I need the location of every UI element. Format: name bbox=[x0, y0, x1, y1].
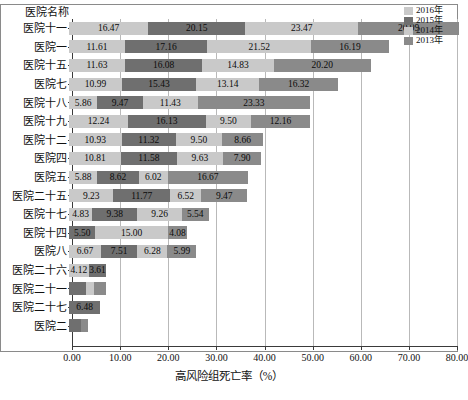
bar-segment[interactable]: 3.61 bbox=[89, 264, 106, 277]
stacked-bar[interactable]: 11.6117.1621.5216.19 bbox=[69, 40, 389, 53]
legend-label: 2014年 bbox=[416, 26, 443, 35]
bar-segment[interactable]: 9.47 bbox=[201, 189, 247, 202]
bar-row-label: 医院二十六 bbox=[0, 264, 69, 276]
bar-segment[interactable]: 16.19 bbox=[311, 40, 389, 53]
stacked-bar[interactable]: 5.869.4711.4323.33 bbox=[69, 96, 310, 109]
bar-segment[interactable]: 4.08 bbox=[168, 226, 188, 239]
bar-segment[interactable]: 16.47 bbox=[69, 22, 148, 35]
bar-segment[interactable]: 6.48 bbox=[69, 301, 100, 314]
bar-row-label: 医院二十七 bbox=[0, 301, 69, 313]
bar-wrap: 12.2416.139.5012.16 bbox=[69, 112, 458, 131]
bar-segment[interactable]: 5.50 bbox=[69, 226, 95, 239]
bar-segment[interactable]: 5.54 bbox=[182, 208, 209, 221]
bar-segment[interactable]: 6.02 bbox=[139, 171, 168, 184]
bar-segment[interactable]: 5.86 bbox=[69, 96, 97, 109]
bar-segment[interactable]: 11.63 bbox=[69, 59, 125, 72]
bar-segment[interactable]: 9.50 bbox=[206, 115, 252, 128]
stacked-bar[interactable]: 11.6316.0814.8320.20 bbox=[69, 59, 371, 72]
stacked-bar[interactable]: 4.839.389.265.54 bbox=[69, 208, 209, 221]
bar-row-label: 医院八 bbox=[0, 245, 69, 257]
bar-segment[interactable]: 10.81 bbox=[69, 152, 121, 165]
bar-segment[interactable]: 6.67 bbox=[69, 245, 101, 258]
bar-segment[interactable] bbox=[69, 319, 81, 332]
bar-segment[interactable]: 7.90 bbox=[223, 152, 261, 165]
bar-segment[interactable]: 13.14 bbox=[196, 78, 259, 91]
bar-wrap: 5.869.4711.4323.33 bbox=[69, 93, 458, 112]
bar-segment[interactable]: 20.15 bbox=[148, 22, 245, 35]
bar-segment[interactable]: 16.67 bbox=[168, 171, 248, 184]
bar-segment[interactable]: 16.32 bbox=[259, 78, 338, 91]
bar-segment[interactable]: 7.51 bbox=[101, 245, 137, 258]
bar-row-label: 医院二十一 bbox=[0, 283, 69, 295]
bar-segment[interactable]: 5.88 bbox=[69, 171, 97, 184]
bar-segment[interactable]: 10.93 bbox=[69, 133, 122, 146]
bar-segment[interactable]: 15.00 bbox=[95, 226, 167, 239]
bar-segment[interactable]: 5.99 bbox=[167, 245, 196, 258]
legend-label: 2013年 bbox=[416, 36, 443, 45]
bar-segment[interactable]: 17.16 bbox=[125, 40, 208, 53]
bar-segment[interactable]: 12.24 bbox=[69, 115, 128, 128]
bar-segment[interactable]: 6.52 bbox=[170, 189, 201, 202]
bar-segment[interactable]: 23.33 bbox=[198, 96, 310, 109]
stacked-bar[interactable]: 16.4720.1523.4720.99 bbox=[69, 22, 459, 35]
bar-segment[interactable]: 9.50 bbox=[176, 133, 222, 146]
bar-segment[interactable]: 23.47 bbox=[245, 22, 358, 35]
legend-label: 2016年 bbox=[416, 6, 443, 15]
x-axis-tick-label: 30.00 bbox=[205, 352, 228, 363]
bar-segment[interactable]: 6.28 bbox=[137, 245, 167, 258]
bar-segment[interactable] bbox=[94, 282, 106, 295]
stacked-bar[interactable]: 10.8111.589.637.90 bbox=[69, 152, 261, 165]
bar-wrap: 11.6316.0814.8320.20 bbox=[69, 56, 458, 75]
stacked-bar[interactable] bbox=[69, 282, 106, 295]
bar-row: 医院二十七6.48 bbox=[0, 298, 458, 317]
bar-row-label: 医院十五 bbox=[0, 59, 69, 71]
bar-wrap: 4.123.61 bbox=[69, 261, 458, 280]
stacked-bar[interactable]: 4.123.61 bbox=[69, 264, 106, 277]
stacked-bar[interactable]: 6.48 bbox=[69, 301, 100, 314]
bar-segment[interactable]: 11.61 bbox=[69, 40, 125, 53]
bar-segment[interactable]: 20.20 bbox=[274, 59, 371, 72]
legend-swatch-icon bbox=[404, 7, 413, 15]
bar-segment[interactable]: 16.13 bbox=[128, 115, 206, 128]
bar-segment[interactable]: 16.08 bbox=[125, 59, 202, 72]
bar-segment[interactable]: 9.26 bbox=[137, 208, 182, 221]
stacked-bar[interactable]: 6.677.516.285.99 bbox=[69, 245, 196, 258]
bar-segment[interactable]: 11.58 bbox=[121, 152, 177, 165]
bar-segment[interactable]: 9.63 bbox=[177, 152, 223, 165]
bar-segment[interactable]: 9.47 bbox=[97, 96, 143, 109]
bar-segment[interactable]: 12.16 bbox=[251, 115, 310, 128]
stacked-bar[interactable]: 12.2416.139.5012.16 bbox=[69, 115, 310, 128]
stacked-bar[interactable]: 5.5015.004.08 bbox=[69, 226, 187, 239]
stacked-bar[interactable] bbox=[69, 319, 88, 332]
x-axis-tick-label: 40.00 bbox=[253, 352, 276, 363]
bar-segment[interactable]: 4.12 bbox=[69, 264, 89, 277]
bar-wrap bbox=[69, 317, 458, 336]
bar-segment[interactable]: 4.83 bbox=[69, 208, 92, 221]
x-axis-tick bbox=[168, 346, 169, 350]
bar-segment[interactable]: 21.52 bbox=[207, 40, 311, 53]
bar-segment[interactable]: 9.23 bbox=[69, 189, 113, 202]
stacked-bar[interactable]: 9.2311.776.529.47 bbox=[69, 189, 247, 202]
bar-wrap: 6.48 bbox=[69, 298, 458, 317]
bar-row: 医院十八5.869.4711.4323.33 bbox=[0, 93, 458, 112]
bar-segment[interactable]: 9.38 bbox=[92, 208, 137, 221]
bar-row-label: 医院十九 bbox=[0, 115, 69, 127]
bar-segment[interactable]: 15.43 bbox=[122, 78, 196, 91]
stacked-bar[interactable]: 10.9311.329.508.66 bbox=[69, 133, 263, 146]
bar-segment[interactable] bbox=[69, 282, 86, 295]
bar-segment[interactable]: 11.77 bbox=[113, 189, 170, 202]
x-axis-title: 高风险组死亡率（%） bbox=[0, 370, 458, 383]
stacked-bar[interactable]: 5.888.626.0216.67 bbox=[69, 171, 248, 184]
x-axis-tick bbox=[120, 346, 121, 350]
bar-row-label: 医院十一 bbox=[0, 22, 69, 34]
stacked-bar[interactable]: 10.9915.4313.1416.32 bbox=[69, 78, 338, 91]
bar-segment[interactable]: 11.43 bbox=[143, 96, 198, 109]
bar-segment[interactable]: 8.66 bbox=[222, 133, 264, 146]
bar-segment[interactable]: 11.32 bbox=[122, 133, 176, 146]
bar-segment[interactable]: 8.62 bbox=[97, 171, 138, 184]
bar-segment[interactable]: 14.83 bbox=[202, 59, 273, 72]
bar-segment[interactable]: 10.99 bbox=[69, 78, 122, 91]
bar-segment[interactable] bbox=[86, 282, 94, 295]
chart-legend: 2016年2015年2014年2013年 bbox=[404, 6, 458, 45]
bar-segment[interactable] bbox=[81, 319, 89, 332]
